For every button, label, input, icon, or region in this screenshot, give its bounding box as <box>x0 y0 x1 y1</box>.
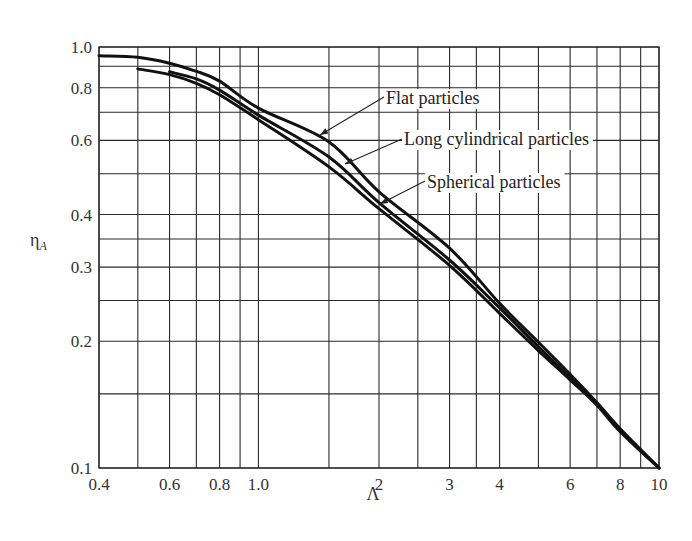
gridlines <box>99 47 659 468</box>
x-tick-label: 10 <box>651 475 668 494</box>
y-tick-label: 0.8 <box>71 79 92 98</box>
y-axis-title-subscript: A <box>38 239 47 253</box>
x-tick-label: 1.0 <box>248 475 269 494</box>
y-tick-label: 0.3 <box>71 258 92 277</box>
annotation-spherical-particles: Spherical particles <box>380 172 564 204</box>
annotation-label: Flat particles <box>386 88 479 108</box>
x-axis-title: Λ <box>366 484 379 504</box>
y-axis-tick-labels: 0.10.20.30.40.60.81.0 <box>71 38 93 478</box>
chart: Flat particlesLong cylindrical particles… <box>0 0 692 541</box>
annotation-label: Long cylindrical particles <box>404 129 589 149</box>
x-tick-label: 6 <box>566 475 575 494</box>
x-tick-label: 0.6 <box>159 475 180 494</box>
arrowhead-icon <box>320 128 328 135</box>
annotation-flat-particles: Flat particles <box>320 88 483 135</box>
annotation-arrow <box>345 139 402 164</box>
y-tick-label: 0.4 <box>71 206 93 225</box>
x-tick-label: 4 <box>495 475 504 494</box>
x-tick-label: 8 <box>616 475 625 494</box>
annotation-label: Spherical particles <box>427 172 560 192</box>
x-tick-label: 3 <box>445 475 454 494</box>
y-tick-label: 0.2 <box>71 332 92 351</box>
annotation-long-cylindrical-particles: Long cylindrical particles <box>345 129 593 164</box>
y-axis-title-main: η <box>30 230 39 250</box>
x-tick-label: 0.8 <box>209 475 230 494</box>
y-tick-label: 0.1 <box>71 459 92 478</box>
y-axis-title: ηA <box>30 230 47 253</box>
y-tick-label: 0.6 <box>71 131 92 150</box>
y-tick-label: 1.0 <box>71 38 92 57</box>
annotation-arrow <box>320 97 384 135</box>
